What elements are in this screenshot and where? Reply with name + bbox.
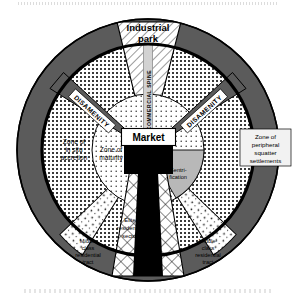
label-commercial-spine: COMMERCIAL SPINE	[146, 70, 152, 130]
label-market: Market	[122, 129, 176, 146]
squatter-line1: Zone of	[255, 133, 276, 140]
middle-right-line1: Middle-	[199, 238, 217, 244]
middle-right-line3: residential	[195, 252, 221, 258]
squatter-line4: settlements	[250, 157, 282, 164]
in-situ-line3: accretion	[61, 154, 88, 161]
middle-right-line2: class	[202, 245, 215, 251]
middle-right-line4: tract	[203, 259, 214, 265]
middle-left-line3: residential	[75, 252, 101, 258]
scan-artifact-top	[18, 2, 278, 5]
gentrification-line2: fication	[169, 174, 187, 180]
in-situ-line2: in situ	[65, 146, 83, 153]
industrial-park-line2: park	[138, 33, 159, 44]
elite-line2: residential	[117, 225, 143, 231]
label-gentrification: Gentri- fication	[169, 167, 187, 180]
middle-left-line4: tract	[83, 259, 94, 265]
figure-griffin-ford-model: Industrial park COMMERCIAL SPINE DISAMEN…	[0, 0, 296, 295]
gentrification-line1: Gentri-	[169, 167, 186, 173]
squatter-line3: squatter	[254, 149, 276, 156]
maturity-line2: maturity	[99, 154, 123, 162]
cbd-spine-south	[133, 172, 163, 276]
maturity-line1: Zone of	[100, 146, 123, 153]
label-peripheral-squatter-settlements: Zone of peripheral squatter settlements	[240, 129, 291, 166]
market-text: Market	[132, 132, 165, 143]
label-zone-of-maturity: Zone of maturity	[99, 146, 123, 162]
commercial-spine-text: COMMERCIAL SPINE	[146, 70, 152, 130]
middle-left-line2: class	[82, 245, 95, 251]
scan-artifact-bottom	[24, 289, 274, 293]
industrial-park-line1: Industrial	[127, 22, 170, 33]
squatter-line2: peripheral	[252, 141, 280, 148]
in-situ-line1: Zone of	[63, 138, 86, 145]
elite-line1: Elite	[124, 217, 135, 223]
latin-american-city-diagram: Industrial park COMMERCIAL SPINE DISAMEN…	[0, 0, 296, 295]
elite-line3: sector	[122, 233, 138, 239]
middle-left-line1: Middle	[80, 238, 96, 244]
